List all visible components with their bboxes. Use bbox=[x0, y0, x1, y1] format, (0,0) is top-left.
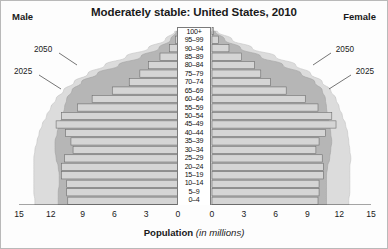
x-tick-left-12: 12 bbox=[46, 209, 56, 219]
bar-right-10-14 bbox=[212, 180, 319, 187]
pyramid-plot-area bbox=[19, 27, 371, 205]
bar-right-0-4 bbox=[212, 197, 318, 204]
bar-right-50-54 bbox=[212, 112, 332, 119]
bar-right-20-24 bbox=[212, 163, 323, 170]
bar-left-25-29 bbox=[65, 155, 178, 162]
bar-right-85-89 bbox=[212, 53, 242, 60]
chart-title: Moderately stable: United States, 2010 bbox=[1, 6, 387, 18]
bar-right-60-64 bbox=[212, 95, 305, 102]
bar-left-45-49 bbox=[56, 121, 178, 128]
bar-right-70-74 bbox=[212, 78, 270, 85]
bar-left-40-44 bbox=[66, 129, 178, 136]
bar-right-45-49 bbox=[212, 121, 336, 128]
bar-left-90-94 bbox=[170, 45, 178, 52]
bar-left-55-59 bbox=[77, 104, 178, 111]
bar-left-30-34 bbox=[73, 146, 178, 153]
bar-right-80-84 bbox=[212, 62, 254, 69]
bar-left-70-74 bbox=[129, 78, 178, 85]
x-tick-right-9: 9 bbox=[305, 209, 310, 219]
x-tick-left-15: 15 bbox=[14, 209, 24, 219]
x-axis-title-italic: (in millions) bbox=[196, 227, 245, 238]
x-tick-left-3: 3 bbox=[144, 209, 149, 219]
bar-right-15-19 bbox=[212, 172, 323, 179]
x-axis-ticks: 1512963003691215 bbox=[19, 205, 371, 221]
x-tick-right-15: 15 bbox=[366, 209, 376, 219]
x-axis-title: Population (in millions) bbox=[1, 227, 387, 238]
bar-left-60-64 bbox=[92, 95, 178, 102]
bar-left-35-39 bbox=[71, 138, 178, 145]
bar-left-75-79 bbox=[140, 70, 178, 77]
annotation-2050-female: 2050 bbox=[336, 45, 354, 54]
bar-right-95-99 bbox=[212, 36, 218, 43]
bar-left-95-99 bbox=[175, 36, 178, 43]
x-tick-left-0: 0 bbox=[176, 209, 181, 219]
x-tick-right-6: 6 bbox=[273, 209, 278, 219]
x-tick-left-6: 6 bbox=[112, 209, 117, 219]
annotation-2050-male: 2050 bbox=[34, 45, 52, 54]
population-bars-group bbox=[56, 28, 336, 205]
bar-right-90-94 bbox=[212, 45, 229, 52]
bar-right-65-69 bbox=[212, 87, 286, 94]
x-axis-title-bold: Population bbox=[144, 227, 194, 238]
bar-left-15-19 bbox=[61, 172, 178, 179]
bar-left-10-14 bbox=[67, 180, 178, 187]
bar-right-25-29 bbox=[212, 155, 322, 162]
bar-left-50-54 bbox=[61, 112, 178, 119]
bar-right-40-44 bbox=[212, 129, 325, 136]
bar-right-55-59 bbox=[212, 104, 318, 111]
chart-figure: Moderately stable: United States, 2010 M… bbox=[0, 0, 388, 249]
bar-left-85-89 bbox=[160, 53, 178, 60]
annotation-2025-male: 2025 bbox=[14, 67, 32, 76]
bar-left-100+ bbox=[177, 28, 178, 35]
x-tick-right-3: 3 bbox=[241, 209, 246, 219]
x-tick-left-9: 9 bbox=[80, 209, 85, 219]
bar-left-0-4 bbox=[68, 197, 178, 204]
bar-right-35-39 bbox=[212, 138, 319, 145]
male-side-label: Male bbox=[12, 11, 33, 22]
female-side-label: Female bbox=[343, 11, 376, 22]
bar-left-20-24 bbox=[61, 163, 178, 170]
bar-right-5-9 bbox=[212, 189, 319, 196]
bar-left-80-84 bbox=[148, 62, 178, 69]
pyramid-svg bbox=[19, 27, 371, 205]
bar-right-100+ bbox=[212, 28, 213, 35]
bar-right-75-79 bbox=[212, 70, 261, 77]
bar-right-30-34 bbox=[212, 146, 316, 153]
bar-left-5-9 bbox=[67, 189, 178, 196]
annotation-2025-female: 2025 bbox=[356, 67, 374, 76]
x-tick-right-0: 0 bbox=[210, 209, 215, 219]
x-tick-right-12: 12 bbox=[334, 209, 344, 219]
bar-left-65-69 bbox=[112, 87, 178, 94]
